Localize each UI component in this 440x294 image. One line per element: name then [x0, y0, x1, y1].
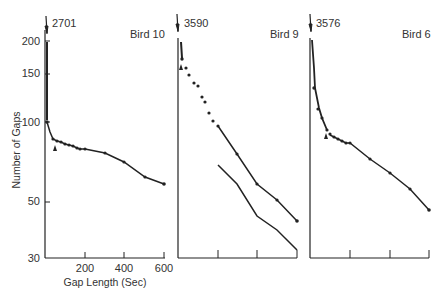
y-tick-150: 150	[22, 67, 40, 79]
y-tick-200: 200	[22, 35, 40, 47]
offscale-value-bird-6: 3576	[316, 17, 340, 29]
offscale-value-bird-10: 2701	[52, 17, 76, 29]
x-axis-title: Gap Length (Sec)	[64, 276, 147, 288]
panel-label-bird-9: Bird 9	[270, 28, 299, 40]
panel-bird-9	[176, 14, 299, 258]
panel-bird-6	[309, 14, 431, 258]
x-tick-200: 200	[76, 262, 94, 274]
y-tick-100: 100	[22, 116, 40, 128]
y-tick-50: 50	[28, 195, 40, 207]
panel-bird-10	[45, 16, 166, 258]
y-tick-30: 30	[28, 252, 40, 264]
x-tick-400: 400	[115, 262, 133, 274]
x-tick-600: 600	[155, 262, 173, 274]
panel-label-bird-6: Bird 6	[402, 28, 431, 40]
x-tick-labels: 200 400 600	[76, 262, 173, 274]
chart-canvas: Number of Gaps 200 150 100 50 30 200 400…	[0, 0, 440, 294]
y-tick-labels: 200 150 100 50 30	[22, 35, 40, 264]
y-axis-title: Number of Gaps	[10, 111, 22, 188]
offscale-value-bird-9: 3590	[184, 17, 208, 29]
panel-label-bird-10: Bird 10	[130, 28, 165, 40]
